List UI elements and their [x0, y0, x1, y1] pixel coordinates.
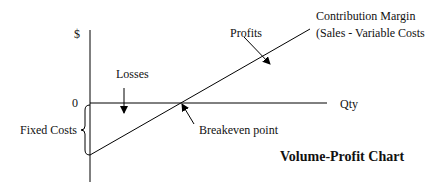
breakeven-label: Breakeven point	[199, 124, 278, 137]
profits-arrow	[244, 37, 270, 64]
breakeven-arrow	[182, 104, 194, 124]
losses-label: Losses	[116, 68, 149, 81]
x-axis-label: Qty	[340, 98, 358, 111]
zero-label: 0	[72, 97, 78, 110]
profits-label: Profits	[230, 27, 262, 40]
contribution-margin-label-line2: (Sales - Variable Costs	[316, 27, 425, 40]
volume-profit-chart: $ 0 Qty Losses Profits Contribution Marg…	[0, 0, 447, 191]
fixed-costs-label: Fixed Costs	[20, 124, 77, 137]
chart-title: Volume-Profit Chart	[280, 150, 404, 163]
contribution-margin-label-line1: Contribution Margin	[316, 10, 415, 23]
y-axis-label: $	[74, 28, 80, 41]
fixed-costs-brace	[81, 105, 90, 155]
